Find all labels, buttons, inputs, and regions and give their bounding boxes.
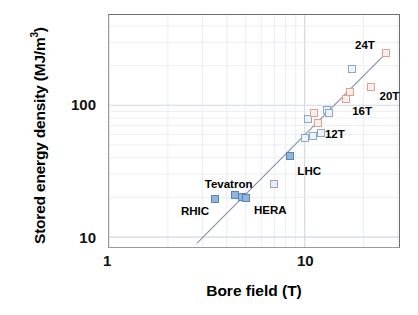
plot-area: RHICTevatronHERALHC12T16T20T24T xyxy=(108,14,400,248)
data-point xyxy=(270,180,278,188)
data-point xyxy=(211,195,219,203)
y-axis-title-text: Stored energy density (MJ/m xyxy=(31,38,48,244)
data-point xyxy=(317,129,325,137)
point-label-rhic: RHIC xyxy=(181,205,209,217)
x-tick-label-10: 10 xyxy=(297,252,314,269)
data-point xyxy=(310,109,318,117)
y-axis-title: Stored energy density (MJ/m3) xyxy=(29,11,48,261)
data-point xyxy=(242,194,250,202)
x-axis-title: Bore field (T) xyxy=(108,282,400,300)
point-label-20t: 20T xyxy=(379,90,399,102)
point-label-hera: HERA xyxy=(254,204,287,216)
y-axis-title-close: ) xyxy=(31,27,48,32)
y-tick-label-10: 10 xyxy=(40,229,96,246)
data-point xyxy=(301,134,309,142)
x-tick-label-1: 1 xyxy=(103,252,111,269)
point-label-tevatron: Tevatron xyxy=(205,178,253,190)
data-point xyxy=(367,83,375,91)
data-point xyxy=(286,152,294,160)
data-point xyxy=(314,119,322,127)
point-label-lhc: LHC xyxy=(297,165,321,177)
y-axis-title-exponent: 3 xyxy=(29,32,40,37)
point-label-16t: 16T xyxy=(352,105,372,117)
data-point xyxy=(382,49,390,57)
data-point xyxy=(348,65,356,73)
y-tick-label-100: 100 xyxy=(40,96,96,113)
data-point xyxy=(346,88,354,96)
chart-figure: Stored energy density (MJ/m3) Bore field… xyxy=(0,0,418,315)
data-point xyxy=(325,109,333,117)
data-point xyxy=(342,95,350,103)
point-label-12t: 12T xyxy=(325,128,345,140)
point-label-24t: 24T xyxy=(355,39,375,51)
